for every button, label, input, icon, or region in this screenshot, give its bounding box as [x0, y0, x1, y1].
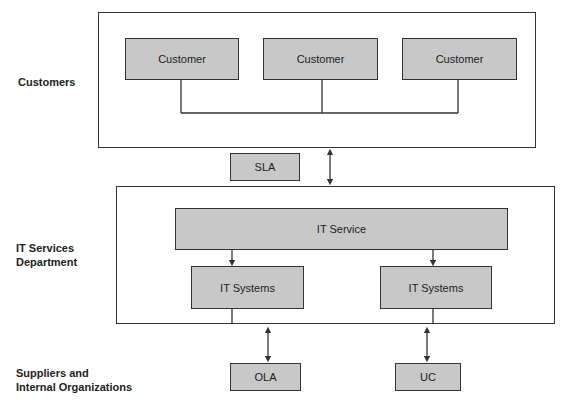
- it-service-box: IT Service: [175, 208, 508, 250]
- sla-box: SLA: [230, 153, 300, 181]
- ola-label: OLA: [254, 371, 276, 383]
- uc-label: UC: [420, 371, 436, 383]
- it-systems-box-1: IT Systems: [191, 266, 304, 309]
- customer-label: Customer: [297, 53, 345, 65]
- it-systems-label: IT Systems: [409, 282, 464, 294]
- sla-label: SLA: [255, 161, 276, 173]
- it-service-label: IT Service: [317, 223, 366, 235]
- ola-box: OLA: [230, 363, 301, 391]
- customer-label: Customer: [436, 53, 484, 65]
- uc-box: UC: [395, 363, 461, 391]
- customer-box-3: Customer: [402, 38, 517, 80]
- customer-label: Customer: [158, 53, 206, 65]
- customer-box-2: Customer: [263, 38, 378, 80]
- customer-box-1: Customer: [125, 38, 239, 80]
- it-systems-label: IT Systems: [220, 282, 275, 294]
- it-systems-box-2: IT Systems: [380, 266, 492, 309]
